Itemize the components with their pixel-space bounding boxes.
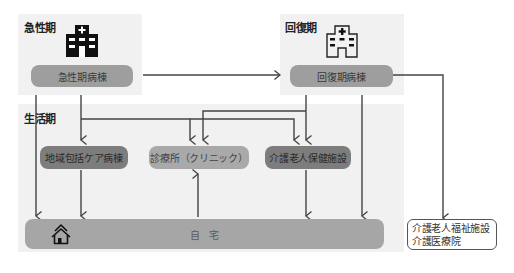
home-label: 自 宅 xyxy=(190,227,219,242)
house-icon xyxy=(50,223,72,245)
recovery-ward-label: 回復期病棟 xyxy=(317,69,366,84)
clinic-label: 診療所（クリニック） xyxy=(150,150,247,165)
acute-ward-box: 急性期病棟 xyxy=(31,65,133,87)
community-care-ward-box: 地域包括ケア病棟 xyxy=(40,146,128,169)
recovery-ward-box: 回復期病棟 xyxy=(290,65,393,87)
nursing-facility-line-1: 介護老人福祉施設 xyxy=(412,222,490,235)
elderly-care-facility-label: 介護老人保健施設 xyxy=(269,150,347,165)
nursing-facility-box: 介護老人福祉施設 介護医療院 xyxy=(407,219,497,250)
community-care-ward-label: 地域包括ケア病棟 xyxy=(45,150,123,165)
nursing-facility-line-2: 介護医療院 xyxy=(412,235,461,248)
home-bar: 自 宅 xyxy=(25,219,384,249)
acute-ward-label: 急性期病棟 xyxy=(58,69,107,84)
clinic-box: 診療所（クリニック） xyxy=(149,146,249,169)
elderly-care-facility-box: 介護老人保健施設 xyxy=(265,146,351,169)
